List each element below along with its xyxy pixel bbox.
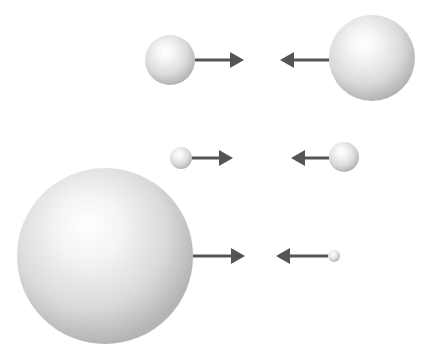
force-arrow-right-row-1-icon (195, 52, 244, 68)
force-arrow-right-row-2-icon (192, 150, 233, 166)
sphere-left-row-3 (17, 168, 193, 344)
force-arrow-left-row-1-icon (280, 52, 329, 68)
sphere-right-row-1 (329, 15, 415, 101)
force-arrow-left-row-3-icon (276, 248, 328, 264)
sphere-right-row-2 (329, 142, 359, 172)
sphere-left-row-1 (145, 35, 195, 85)
diagram-canvas (0, 0, 435, 363)
sphere-right-row-3 (328, 250, 340, 262)
gravity-diagram (0, 0, 435, 363)
sphere-left-row-2 (170, 147, 192, 169)
force-arrow-right-row-3-icon (193, 248, 245, 264)
force-arrow-left-row-2-icon (291, 150, 329, 166)
